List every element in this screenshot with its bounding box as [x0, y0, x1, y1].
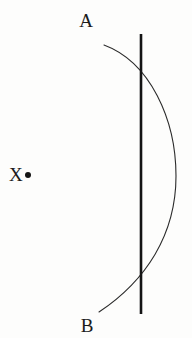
label-point-B: B [0, 316, 183, 335]
geometry-figure: A B X [0, 0, 192, 338]
drawing-layer [99, 34, 176, 314]
label-point-A: A [0, 11, 182, 30]
arc-curve [99, 45, 176, 312]
point-X-group: X [9, 165, 31, 184]
bullet-dot-icon [25, 172, 31, 178]
label-point-X: X [9, 165, 23, 184]
